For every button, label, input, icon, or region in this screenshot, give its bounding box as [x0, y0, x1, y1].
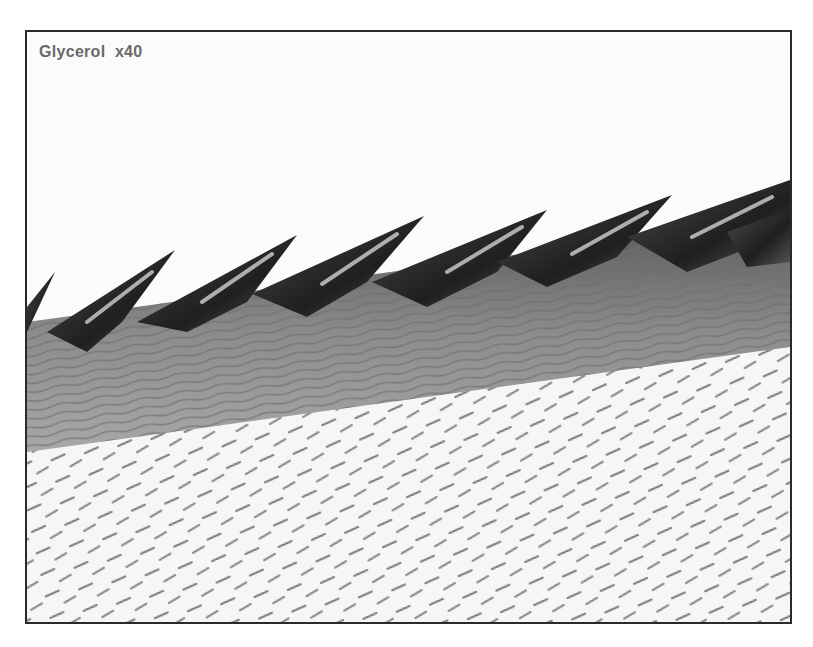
magnification-label: Glycerol x40 [39, 43, 143, 61]
micrograph-frame: Glycerol x40 [25, 30, 792, 624]
micrograph-image [27, 32, 790, 622]
